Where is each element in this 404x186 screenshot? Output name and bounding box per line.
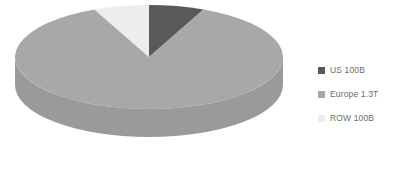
legend-item-row[interactable]: ROW 100B [318,106,404,130]
legend-label-europe: Europe 1.3T [330,89,378,99]
chart-legend: US 100B Europe 1.3T ROW 100B [318,58,404,130]
legend-swatch-us-icon [318,67,325,74]
pie-plot-area [0,0,300,186]
legend-swatch-europe-icon [318,91,325,98]
legend-label-row: ROW 100B [330,113,374,123]
pie-chart-figure: US 100B Europe 1.3T ROW 100B [0,0,404,186]
legend-item-us[interactable]: US 100B [318,58,404,82]
legend-item-europe[interactable]: Europe 1.3T [318,82,404,106]
pie-3d-group [15,5,283,137]
legend-label-us: US 100B [330,65,365,75]
legend-swatch-row-icon [318,115,325,122]
pie-svg [0,0,300,186]
